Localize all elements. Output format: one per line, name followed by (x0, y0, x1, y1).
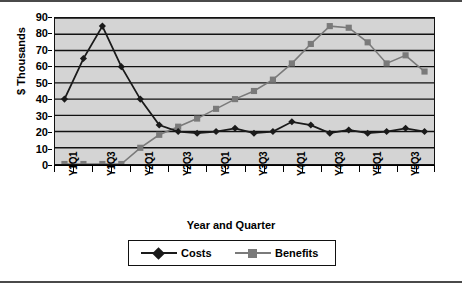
x-axis-title: Year and Quarter (0, 219, 462, 231)
y-axis-tick-label: 90 (36, 11, 48, 23)
x-axis-tick-label: Y1Q3 (106, 152, 117, 176)
data-point (156, 132, 162, 138)
x-axis-tick-label: Y4Q3 (334, 152, 345, 176)
y-axis-tickmark (48, 33, 52, 34)
data-point (118, 63, 125, 70)
y-axis-tickmark (48, 132, 52, 133)
y-axis-tickmark (48, 66, 52, 67)
plot-area (54, 17, 435, 165)
data-point (250, 130, 257, 137)
data-point (364, 130, 371, 137)
data-point (80, 161, 86, 164)
x-axis-tick-label: Y2Q3 (182, 152, 193, 176)
data-point (288, 118, 295, 125)
data-point (212, 128, 219, 135)
legend-item-costs: Costs (141, 241, 212, 265)
chart-legend: Costs Benefits (128, 240, 336, 266)
x-axis-tick-label: Y3Q3 (258, 152, 269, 176)
plot-svg (55, 18, 434, 164)
y-axis-tick-labels: 0102030405060708090 (22, 13, 52, 168)
y-axis-tickmark (48, 165, 52, 166)
data-point (251, 88, 257, 94)
y-axis-tick-label: 40 (36, 93, 48, 105)
x-axis-tick-label: Y5Q3 (410, 152, 421, 176)
x-axis-tick-label: Y4Q1 (296, 152, 307, 176)
data-point (194, 116, 200, 122)
data-point (402, 125, 409, 132)
data-point (421, 128, 428, 135)
data-point (384, 60, 390, 66)
x-axis-tickmark (245, 166, 246, 172)
x-axis-tick-label: Y2Q1 (144, 152, 155, 176)
y-axis-tick-label: 50 (36, 77, 48, 89)
data-point (383, 128, 390, 135)
x-axis-tickmark (168, 166, 169, 172)
data-point (327, 23, 333, 29)
y-axis-tickmark (48, 50, 52, 51)
legend-label-benefits: Benefits (275, 247, 318, 259)
data-point (365, 39, 371, 45)
x-axis-tickmark (130, 166, 131, 172)
y-axis-tickmark (48, 17, 52, 18)
data-point (80, 55, 87, 62)
data-point (232, 96, 238, 102)
data-point (99, 23, 106, 30)
y-axis-tick-label: 80 (36, 27, 48, 39)
legend-item-benefits: Benefits (235, 241, 318, 265)
data-point (269, 128, 276, 135)
y-axis-tick-label: 60 (36, 60, 48, 72)
x-axis-tickmark (54, 166, 55, 172)
legend-marker-square-icon (235, 247, 271, 259)
data-point (61, 161, 67, 164)
x-axis-tick-label: Y1Q1 (68, 152, 79, 176)
series-benefits (61, 23, 427, 164)
y-axis-tick-label: 10 (36, 143, 48, 155)
y-axis-tick-label: 30 (36, 110, 48, 122)
x-axis-tick-labels: Y1Q1Y1Q3Y2Q1Y2Q3Y3Q1Y3Q3Y4Q1Y4Q3Y5Q1Y5Q3 (54, 174, 435, 218)
x-axis-tickmark (283, 166, 284, 172)
x-axis-tickmark (206, 166, 207, 172)
y-axis-tickmark (48, 149, 52, 150)
y-axis-tick-label: 70 (36, 44, 48, 56)
legend-marker-diamond-icon (141, 247, 177, 259)
x-axis-tick-label: Y3Q1 (220, 152, 231, 176)
data-point (270, 77, 276, 83)
data-point (345, 126, 352, 133)
data-point (231, 125, 238, 132)
x-axis-tick-label: Y5Q1 (372, 152, 383, 176)
y-axis-tickmark (48, 99, 52, 100)
x-axis-tickmark (397, 166, 398, 172)
y-axis-tickmark (48, 83, 52, 84)
data-point (194, 130, 201, 137)
data-point (326, 130, 333, 137)
series-line (64, 26, 424, 164)
y-axis-tick-label: 20 (36, 126, 48, 138)
legend-label-costs: Costs (181, 247, 212, 259)
data-point (421, 68, 427, 74)
y-axis-tickmark (48, 116, 52, 117)
data-point (137, 145, 143, 151)
x-axis-tickmark (434, 166, 435, 172)
data-point (99, 161, 105, 164)
x-axis-tickmark (92, 166, 93, 172)
data-point (118, 161, 124, 164)
series-costs (61, 23, 428, 137)
x-axis-tickmark (321, 166, 322, 172)
data-point (308, 41, 314, 47)
data-point (402, 52, 408, 58)
data-point (61, 96, 68, 103)
data-point (307, 122, 314, 129)
x-axis-tickmark (359, 166, 360, 172)
data-point (213, 106, 219, 112)
line-chart: $ Thousands 0102030405060708090 Y1Q1Y1Q3… (0, 0, 462, 283)
data-point (289, 60, 295, 66)
data-point (346, 25, 352, 31)
